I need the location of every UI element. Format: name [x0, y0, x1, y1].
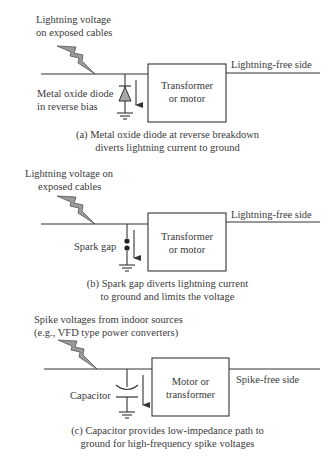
panel-b-box-label: Transformer or motor [148, 231, 226, 256]
ground-symbol-icon [117, 113, 133, 119]
panel-c-caption: (c) Capacitor provides low-impedance pat… [0, 425, 335, 450]
diode-symbol-icon [119, 86, 131, 101]
panel-b-output-label: Lightning-free side [231, 209, 312, 222]
ground-symbol-icon [119, 265, 135, 271]
panel-b-source-label: Lightning voltage on exposed cables [25, 168, 113, 193]
panel-b-caption: (b) Spark gap diverts lightning current … [0, 278, 335, 303]
ground-symbol-icon [119, 412, 135, 418]
panel-b-component-label: Spark gap [74, 241, 116, 254]
panel-c-component-label: Capacitor [70, 390, 111, 403]
panel-a-output-label: Lightning-free side [231, 59, 312, 72]
panel-a-source-label: Lightning voltage on exposed cables [36, 14, 112, 39]
panel-c-source-label: Spike voltages from indoor sources (e.g.… [34, 314, 183, 339]
panel-a-component-label: Metal oxide diode in reverse bias [37, 88, 113, 113]
panel-c-output-label: Spike-free side [236, 374, 299, 387]
lightning-bolt-icon [58, 340, 97, 369]
lightning-bolt-icon [57, 196, 95, 224]
panel-a-box-label: Transformer or motor [148, 80, 226, 105]
lightning-bolt-icon [57, 46, 95, 74]
panel-c-box-label: Motor or transformer [152, 376, 229, 401]
spark-gap-symbol-icon [124, 238, 129, 250]
panel-a-caption: (a) Metal oxide diode at reverse breakdo… [0, 129, 335, 154]
